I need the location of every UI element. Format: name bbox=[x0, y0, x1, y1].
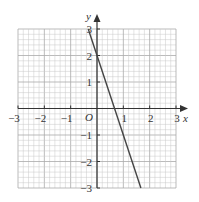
y-axis-arrow-icon bbox=[94, 14, 101, 22]
x-tick-label: 1 bbox=[122, 112, 128, 124]
y-tick-label: −2 bbox=[80, 156, 92, 168]
origin-label: O bbox=[85, 111, 93, 123]
y-tick-label: −3 bbox=[80, 182, 92, 194]
x-tick-label: −1 bbox=[61, 112, 73, 124]
x-tick-label: −3 bbox=[8, 112, 20, 124]
x-tick-label: 3 bbox=[174, 112, 180, 124]
y-tick-label: −1 bbox=[80, 129, 92, 141]
y-tick-label: 1 bbox=[87, 76, 93, 88]
y-tick-label: 2 bbox=[87, 50, 93, 62]
x-axis-label: x bbox=[182, 112, 188, 124]
x-tick-label: −2 bbox=[34, 112, 46, 124]
x-axis-arrow-icon bbox=[180, 105, 188, 112]
coordinate-graph: −3−2−1123321−1−2−3 x y O bbox=[0, 0, 199, 202]
x-tick-label: 2 bbox=[148, 112, 154, 124]
y-axis-label: y bbox=[85, 10, 91, 22]
